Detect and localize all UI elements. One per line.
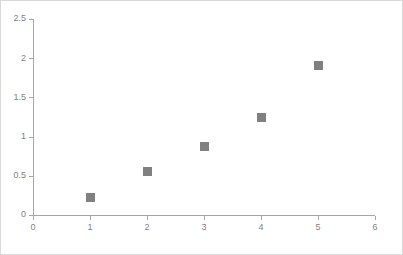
data-point-marker[interactable] <box>143 167 152 176</box>
data-point-marker[interactable] <box>200 142 209 151</box>
y-tick-label: 2 <box>21 53 26 63</box>
scatter-plot[interactable]: 00.511.522.5 0123456 <box>1 1 403 255</box>
y-tick-label: 0.5 <box>13 170 26 180</box>
data-point-marker[interactable] <box>86 193 95 202</box>
y-tick-label: 1.5 <box>13 92 26 102</box>
data-point-marker[interactable] <box>314 61 323 70</box>
chart-frame: 00.511.522.5 0123456 <box>0 0 403 255</box>
x-axis: 0123456 <box>30 216 377 232</box>
x-tick-label: 4 <box>258 222 263 232</box>
x-tick-label: 0 <box>30 222 35 232</box>
y-tick-label: 1 <box>21 131 26 141</box>
y-tick-label: 2.5 <box>13 13 26 23</box>
data-point-marker[interactable] <box>257 113 266 122</box>
y-axis: 00.511.522.5 <box>13 13 33 219</box>
y-tick-label: 0 <box>21 209 26 219</box>
data-series-series1[interactable] <box>86 61 323 202</box>
x-tick-label: 2 <box>144 222 149 232</box>
x-tick-label: 1 <box>87 222 92 232</box>
x-tick-label: 3 <box>201 222 206 232</box>
x-tick-label: 5 <box>315 222 320 232</box>
x-tick-label: 6 <box>372 222 377 232</box>
